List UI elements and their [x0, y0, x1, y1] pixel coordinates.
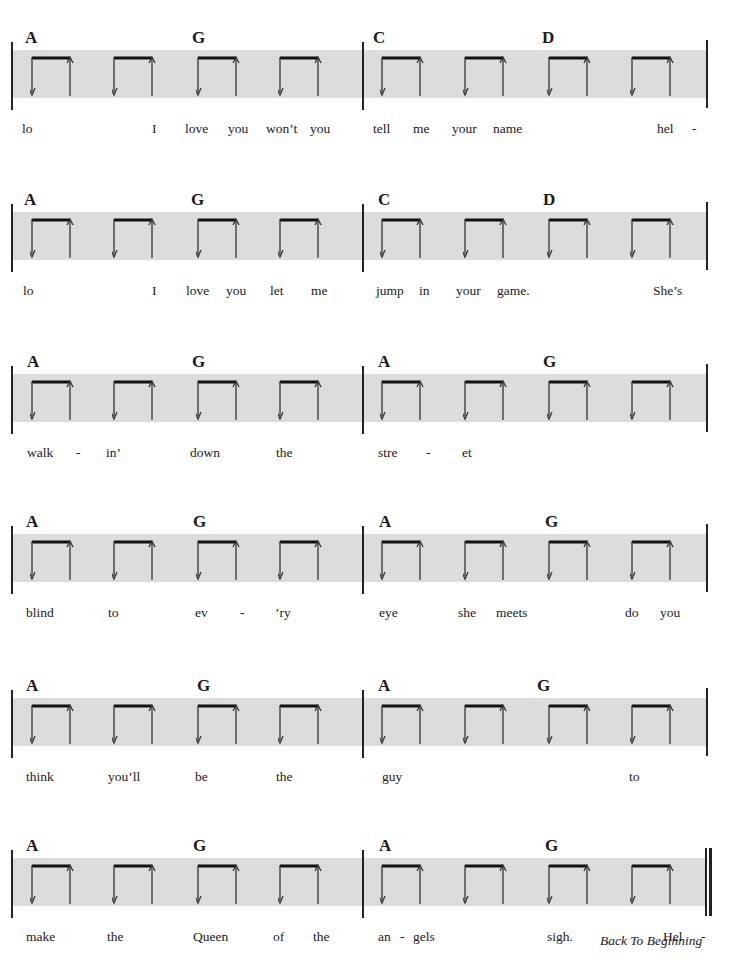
down-up-strum-icon [278, 380, 322, 422]
lyric-syllable: - [426, 445, 431, 461]
down-up-strum-icon [112, 540, 156, 582]
down-up-strum-icon [30, 56, 74, 98]
chord-label: G [537, 676, 550, 696]
barline-middle [362, 690, 364, 758]
lyric-syllable: eye [379, 605, 398, 621]
lyric-syllable: think [26, 769, 54, 785]
chord-label: G [543, 352, 556, 372]
music-system: AGAGthinkyou’llbetheguyto [0, 676, 729, 826]
down-up-strum-icon [463, 704, 507, 746]
lyric-syllable: jump [376, 283, 404, 299]
lyric-syllable: ev [195, 605, 208, 621]
down-up-strum-icon [380, 540, 424, 582]
down-up-strum-icon [463, 540, 507, 582]
chord-label: A [379, 512, 391, 532]
lyric-syllable: you [660, 605, 680, 621]
barline-start [11, 204, 13, 272]
lyric-syllable: walk [27, 445, 53, 461]
chord-label: C [373, 28, 385, 48]
down-up-strum-icon [630, 540, 674, 582]
down-up-strum-icon [547, 540, 591, 582]
lyric-syllable: you [226, 283, 246, 299]
chord-label: G [192, 352, 205, 372]
lyric-syllable: me [311, 283, 328, 299]
music-system: AGAGwalk-in’downthestre-et [0, 352, 729, 502]
down-up-strum-icon [630, 218, 674, 260]
barline-end [706, 688, 708, 756]
down-up-strum-icon [112, 218, 156, 260]
music-system: AGCDloIloveyouwon’tyoutellmeyournamehel- [0, 28, 729, 178]
lyric-syllable: tell [373, 121, 390, 137]
lyric-syllable: make [26, 929, 55, 945]
lyric-syllable: gels [413, 929, 435, 945]
chord-label: G [545, 512, 558, 532]
down-up-strum-icon [630, 380, 674, 422]
lyric-syllable: she [458, 605, 476, 621]
barline-middle [362, 204, 364, 272]
final-double-barline [705, 848, 707, 916]
chord-label: G [191, 190, 204, 210]
lyric-syllable: meets [496, 605, 528, 621]
barline-end [706, 202, 708, 270]
lyric-syllable: down [190, 445, 220, 461]
chord-label: A [378, 676, 390, 696]
barline-middle [362, 850, 364, 918]
lyric-syllable: be [195, 769, 208, 785]
down-up-strum-icon [630, 704, 674, 746]
lyric-syllable: won’t [266, 121, 297, 137]
lyric-syllable: ’ry [275, 605, 291, 621]
lyric-syllable: to [629, 769, 640, 785]
chord-label: C [378, 190, 390, 210]
down-up-strum-icon [630, 864, 674, 906]
lyric-syllable: She’s [653, 283, 682, 299]
barline-start [11, 42, 13, 110]
down-up-strum-icon [112, 704, 156, 746]
down-up-strum-icon [463, 56, 507, 98]
lyric-syllable: lo [22, 121, 33, 137]
lyric-syllable: in [419, 283, 430, 299]
lyric-syllable: you [310, 121, 330, 137]
chord-label: G [192, 28, 205, 48]
chord-label: D [542, 28, 554, 48]
down-up-strum-icon [463, 380, 507, 422]
down-up-strum-icon [196, 56, 240, 98]
down-up-strum-icon [380, 218, 424, 260]
barline-start [11, 366, 13, 434]
down-up-strum-icon [30, 704, 74, 746]
down-up-strum-icon [547, 380, 591, 422]
down-up-strum-icon [547, 218, 591, 260]
down-up-strum-icon [278, 704, 322, 746]
down-up-strum-icon [112, 380, 156, 422]
lyric-syllable: blind [26, 605, 54, 621]
lyric-syllable: the [276, 769, 293, 785]
lyric-syllable: you [228, 121, 248, 137]
lyric-syllable: love [185, 121, 208, 137]
down-up-strum-icon [30, 218, 74, 260]
lyric-syllable: I [152, 121, 157, 137]
lyric-syllable: stre [378, 445, 398, 461]
down-up-strum-icon [196, 864, 240, 906]
lyric-syllable: et [462, 445, 472, 461]
down-up-strum-icon [278, 218, 322, 260]
down-up-strum-icon [196, 380, 240, 422]
music-system: AGCDloIloveyouletmejumpinyourgame.She’s [0, 190, 729, 340]
barline-start [11, 850, 13, 918]
chord-label: G [193, 836, 206, 856]
down-up-strum-icon [30, 540, 74, 582]
lyric-syllable: an [378, 929, 391, 945]
down-up-strum-icon [278, 540, 322, 582]
down-up-strum-icon [463, 218, 507, 260]
down-up-strum-icon [196, 704, 240, 746]
chord-label: A [26, 836, 38, 856]
down-up-strum-icon [112, 56, 156, 98]
lyric-syllable: name [493, 121, 522, 137]
lyric-syllable: - [400, 929, 405, 945]
lyric-syllable: the [276, 445, 293, 461]
down-up-strum-icon [196, 540, 240, 582]
down-up-strum-icon [380, 704, 424, 746]
chord-label: A [378, 352, 390, 372]
barline-end [706, 524, 708, 592]
lyric-syllable: guy [382, 769, 402, 785]
down-up-strum-icon [380, 864, 424, 906]
down-up-strum-icon [196, 218, 240, 260]
